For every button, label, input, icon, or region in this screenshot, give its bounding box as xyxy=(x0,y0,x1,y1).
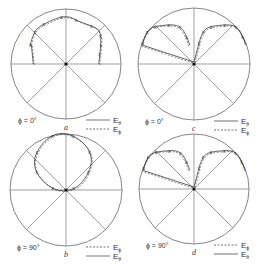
measured-point-marker: x xyxy=(142,165,145,171)
e-phi-trace xyxy=(142,26,194,63)
measured-point-marker: x xyxy=(42,21,45,27)
measured-point-marker: x xyxy=(179,24,182,30)
phi-angle-label: ϕ = 0° xyxy=(145,118,164,126)
panel-b: xxxxxxxxϕ = 90°bEϕEθ xyxy=(10,133,122,262)
panel-letter-label: b xyxy=(64,250,68,259)
measured-point-marker: x xyxy=(72,133,75,139)
legend-label: Eθ xyxy=(241,250,249,260)
panel-c: xxxxxxxxxxxxϕ = 0°cEθEϕ xyxy=(138,8,250,136)
phi-angle-label: ϕ = 90° xyxy=(146,242,169,250)
e-phi-trace xyxy=(35,135,92,192)
measured-point-marker: x xyxy=(234,150,237,156)
panel-a: xxxxxxxxϕ = 0°aEθEϕ xyxy=(11,9,121,135)
measured-point-marker: x xyxy=(235,24,238,30)
legend-label: Eθ xyxy=(113,252,121,262)
legend-label: Eϕ xyxy=(241,126,249,136)
phi-angle-label: ϕ = 90° xyxy=(17,244,40,252)
measured-point-marker: x xyxy=(75,17,78,23)
origin-dot xyxy=(64,62,67,65)
panel-letter-label: a xyxy=(64,123,68,132)
legend-label: Eϕ xyxy=(113,125,121,135)
measured-point-marker: x xyxy=(179,150,182,156)
measured-point-marker: x xyxy=(202,29,205,35)
e-phi-trace xyxy=(142,152,193,188)
measured-point-marker: x xyxy=(202,154,205,160)
panel-letter-label: d xyxy=(192,248,197,257)
panel-d: xxxxxxxxxxxxϕ = 90°dEϕEθ xyxy=(139,134,249,260)
measured-point-marker: x xyxy=(90,23,93,29)
measured-point-marker: x xyxy=(141,40,144,46)
measured-point-marker: x xyxy=(72,185,75,191)
e-theta-trace xyxy=(34,134,91,191)
polar-pattern-figure: xxxxxxxxϕ = 0°aEθEϕxxxxxxxxxxxxϕ = 0°cEθ… xyxy=(0,0,264,265)
panel-letter-label: c xyxy=(192,124,196,133)
phi-angle-label: ϕ = 0° xyxy=(18,117,37,125)
